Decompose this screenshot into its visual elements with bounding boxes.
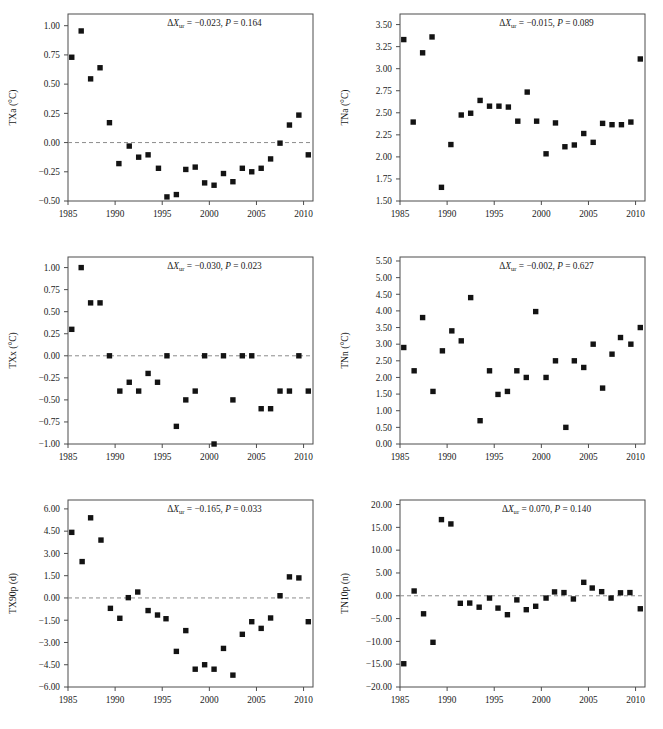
y-tick-label: 4.50 [44,526,61,536]
data-point [410,119,415,124]
data-point [600,121,605,126]
y-tick-label: 1.50 [376,196,393,206]
y-tick-label: 10.00 [371,545,392,555]
data-point [136,388,141,393]
x-tick-label: 1990 [106,695,125,705]
x-tick-label: 2010 [626,695,645,705]
data-point [78,265,83,270]
y-tick-label: 1.00 [44,263,61,273]
y-tick-label: −1.00 [38,439,60,449]
plot-frame [400,500,645,687]
data-point [487,595,492,600]
data-point [163,616,168,621]
data-point [240,166,245,171]
data-point [619,122,624,127]
y-tick-label: 3.50 [376,323,393,333]
data-point [211,441,216,446]
data-point [108,606,113,611]
data-point [277,140,282,145]
y-tick-label: −0.25 [38,373,60,383]
x-tick-label: 1985 [59,209,78,219]
x-tick-label: 1995 [485,695,504,705]
data-point [525,89,530,94]
y-tick-label: 4.00 [376,306,393,316]
data-point [458,601,463,606]
y-tick-label: 0.50 [376,423,393,433]
y-axis-title: TX90p (d) [7,573,19,614]
data-point [590,341,595,346]
data-point [448,142,453,147]
data-point [117,388,122,393]
x-tick-label: 2010 [294,452,313,462]
x-tick-label: 2000 [200,209,219,219]
y-tick-label: 0.50 [44,79,61,89]
data-point [306,619,311,624]
y-tick-label: 0.00 [44,138,61,148]
y-tick-label: 5.50 [376,256,393,266]
trend-annotation: ΔXur = −0.023, P = 0.164 [167,18,262,29]
data-point [496,103,501,108]
y-tick-label: 4.50 [376,290,393,300]
y-tick-label: 1.50 [376,389,393,399]
data-point [107,120,112,125]
data-point [495,392,500,397]
data-point [590,140,595,145]
y-axis-title: TXa (°C) [7,89,19,125]
data-point [533,309,538,314]
data-point [193,666,198,671]
data-point [524,375,529,380]
x-tick-label: 2000 [200,695,219,705]
y-tick-label: 3.25 [376,42,393,52]
data-point [439,185,444,190]
y-tick-label: 0.00 [44,351,61,361]
data-point [515,118,520,123]
data-point [628,119,633,124]
data-point [533,604,538,609]
data-point [107,353,112,358]
data-point [420,50,425,55]
x-tick-label: 1990 [438,209,457,219]
x-tick-label: 2005 [579,695,598,705]
plot-frame [400,14,645,201]
data-point [249,619,254,624]
data-point [563,425,568,430]
data-point [534,118,539,123]
x-tick-label: 1985 [59,695,78,705]
data-point [296,575,301,580]
x-tick-label: 1990 [106,209,125,219]
plot-frame [68,500,313,687]
data-point [145,371,150,376]
x-tick-label: 2010 [626,452,645,462]
data-point [202,662,207,667]
data-point [126,595,131,600]
x-tick-label: 2005 [247,452,266,462]
trend-annotation: ΔXur = −0.002, P = 0.627 [499,261,594,272]
data-point [69,327,74,332]
data-point [69,530,74,535]
x-tick-label: 2005 [579,452,598,462]
data-point [296,353,301,358]
x-tick-label: 1990 [106,452,125,462]
data-point [88,515,93,520]
data-point [193,388,198,393]
x-tick-label: 2010 [294,695,313,705]
y-tick-label: −6.00 [38,682,60,692]
data-point [401,661,406,666]
y-tick-label: −4.50 [38,660,60,670]
figure-container: −0.50−0.250.000.250.500.751.001985199019… [0,0,663,729]
x-tick-label: 2005 [247,209,266,219]
data-point [258,406,263,411]
data-series [401,517,643,667]
data-point [449,328,454,333]
x-tick-label: 1985 [391,209,410,219]
data-point [627,590,632,595]
plot-frame [400,257,645,444]
y-tick-label: 15.00 [371,523,392,533]
x-tick-label: 1990 [438,452,457,462]
data-point [401,345,406,350]
data-point [211,183,216,188]
data-point [258,626,263,631]
data-point [581,580,586,585]
data-point [268,156,273,161]
plot-area-tnn: 0.000.501.001.502.002.503.003.504.004.50… [332,243,663,486]
